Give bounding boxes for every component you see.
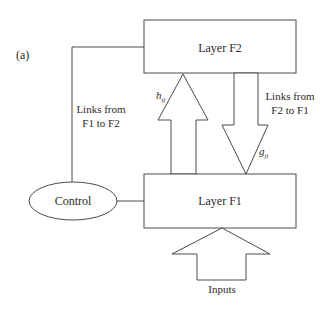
art1-diagram: (a) Layer F2 Layer F1 Inputs Control Lin… <box>0 0 323 309</box>
panel-label: (a) <box>16 48 29 62</box>
control-node: Control <box>29 182 117 220</box>
layer-f2-box: Layer F2 <box>144 20 296 73</box>
links-f2-f1-line2: F2 to F1 <box>271 104 308 116</box>
up-arrow-icon <box>158 74 208 174</box>
inputs-arrow-icon <box>172 228 270 280</box>
layer-f2-label: Layer F2 <box>198 41 242 55</box>
layer-f1-label: Layer F1 <box>198 194 242 208</box>
inputs-label: Inputs <box>208 283 236 295</box>
g-ji-label: gji <box>259 145 268 160</box>
layer-f1-box: Layer F1 <box>144 174 296 228</box>
h-ij-label: hij <box>156 89 165 104</box>
links-f2-f1-line1: Links from <box>265 90 315 102</box>
links-f1-f2-line1: Links from <box>76 103 126 115</box>
down-arrow-icon <box>222 73 268 174</box>
control-label: Control <box>55 194 92 208</box>
links-f1-f2-line2: F1 to F2 <box>82 117 119 129</box>
